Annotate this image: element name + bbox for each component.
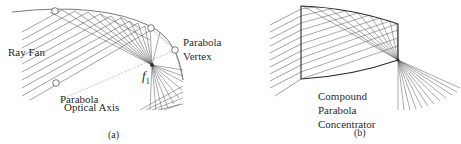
vertex-label-line1: Parabola [183, 37, 221, 48]
vertex-marker-circle [172, 47, 179, 54]
cpc-label-line1: Compound [318, 91, 367, 102]
caption-a: (a) [108, 129, 119, 140]
marker-circle-2 [148, 25, 155, 32]
focus-point [150, 63, 154, 67]
ray-fan-label: Ray Fan [8, 47, 45, 58]
vertex-chord [151, 28, 175, 50]
focus-point-b [397, 59, 400, 62]
focus-label: f1 [142, 70, 150, 87]
exit-fan-b [398, 60, 460, 110]
reflected-rays [50, 12, 160, 65]
incoming-rays [270, 9, 301, 96]
internal-rays [301, 6, 398, 79]
caption-b: (b) [354, 127, 366, 138]
cpc-label-line2: Parabola [318, 105, 356, 116]
marker-circle-1 [52, 8, 59, 15]
concentrator-outline [301, 6, 398, 79]
optics-diagram [0, 0, 461, 144]
vertex-chord-2 [175, 50, 183, 80]
focus-subscript: 1 [146, 77, 150, 86]
axis-label-line2: Optical Axis [64, 102, 119, 113]
vertex-label-line2: Vertex [183, 51, 212, 62]
cpc-label-line3: Concentrator [318, 119, 375, 130]
marker-circle-4 [53, 80, 60, 87]
